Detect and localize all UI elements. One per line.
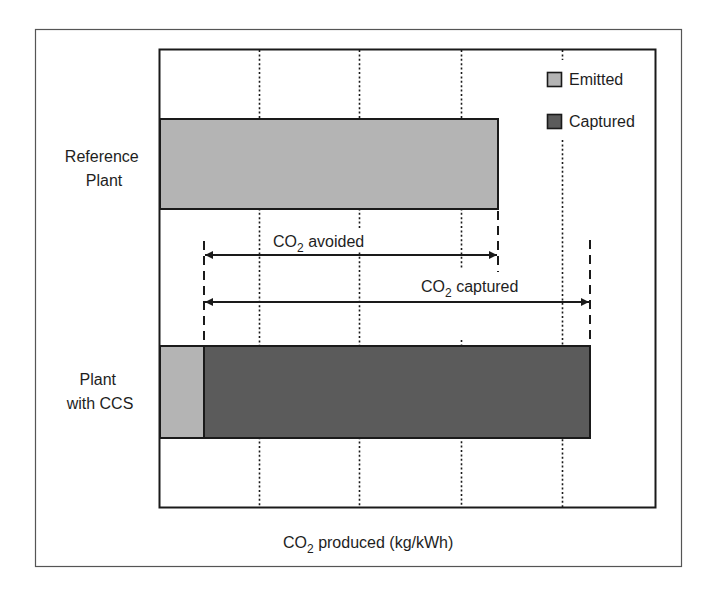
legend-emitted-swatch	[548, 73, 562, 87]
reference-plant-emitted-bar	[160, 119, 498, 209]
legend-emitted-label: Emitted	[569, 71, 623, 88]
ccs-plant-emitted-bar	[160, 346, 204, 438]
ccs-plant-captured-bar	[204, 346, 590, 438]
legend-captured-swatch	[548, 115, 562, 129]
co2-capture-diagram: CO2 avoided CO2 captured Emitted Capture…	[0, 0, 709, 589]
legend-captured-label: Captured	[569, 113, 635, 130]
